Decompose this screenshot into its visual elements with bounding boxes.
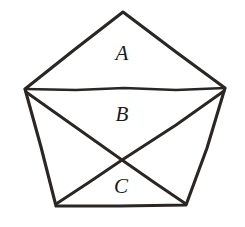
region-label-c: C (114, 174, 129, 198)
region-label-b: B (116, 102, 129, 126)
region-label-a: A (114, 41, 129, 65)
pentagon-diagram: A B C (0, 0, 245, 227)
figure-container: A B C (0, 0, 245, 227)
